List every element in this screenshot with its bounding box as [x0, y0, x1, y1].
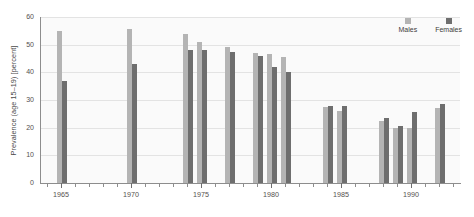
x-axis-minor-tick — [355, 183, 356, 187]
legend-swatch-icon — [405, 18, 411, 24]
bar-series-container — [41, 17, 461, 183]
bar-females-1981 — [286, 72, 291, 183]
x-axis-tick-label: 1975 — [193, 190, 209, 199]
chart-figure: Prevalence (age 15–19) [percent] 0102030… — [0, 0, 474, 217]
bar-females-1990 — [412, 112, 417, 183]
x-axis-minor-tick — [383, 183, 384, 187]
legend-label: Males — [398, 26, 417, 33]
bar-females-1975 — [202, 50, 207, 183]
x-axis-minor-tick — [159, 183, 160, 187]
legend-item-females: Females — [435, 18, 462, 33]
x-axis-minor-tick — [257, 183, 258, 187]
x-axis-minor-tick — [397, 183, 398, 187]
legend-swatch-icon — [446, 18, 452, 24]
x-axis-tick-label: 1965 — [53, 190, 69, 199]
x-axis-minor-tick — [425, 183, 426, 187]
legend-label: Females — [435, 26, 462, 33]
x-axis-minor-tick — [453, 183, 454, 187]
bar-females-1989 — [398, 126, 403, 183]
x-axis-tick-label: 1990 — [403, 190, 419, 199]
x-axis-minor-tick — [103, 183, 104, 187]
bar-females-1979 — [258, 56, 263, 183]
bar-females-1965 — [62, 81, 67, 183]
bar-females-1980 — [272, 67, 277, 183]
x-axis-major-tick — [341, 183, 342, 188]
x-axis-major-tick — [271, 183, 272, 188]
legend-item-males: Males — [398, 18, 417, 33]
x-axis-minor-tick — [173, 183, 174, 187]
bar-females-1977 — [230, 52, 235, 183]
bar-females-1974 — [188, 50, 193, 183]
x-axis-major-tick — [201, 183, 202, 188]
bar-females-1984 — [328, 106, 333, 183]
x-axis-minor-tick — [439, 183, 440, 187]
x-axis-tick-label: 1980 — [263, 190, 279, 199]
x-axis-minor-tick — [285, 183, 286, 187]
x-axis-major-tick — [61, 183, 62, 188]
x-axis-minor-tick — [145, 183, 146, 187]
x-axis-major-tick — [411, 183, 412, 188]
x-axis-minor-tick — [327, 183, 328, 187]
x-axis-minor-tick — [215, 183, 216, 187]
bar-females-1970 — [132, 64, 137, 183]
x-axis-minor-tick — [75, 183, 76, 187]
x-axis-tick-label: 1970 — [123, 190, 139, 199]
x-axis-minor-tick — [299, 183, 300, 187]
x-axis-tick-label: 1985 — [333, 190, 349, 199]
legend: MalesFemales — [398, 18, 462, 33]
x-axis-minor-tick — [229, 183, 230, 187]
x-axis-minor-tick — [313, 183, 314, 187]
x-axis-minor-tick — [47, 183, 48, 187]
x-axis-minor-tick — [243, 183, 244, 187]
x-axis-minor-tick — [89, 183, 90, 187]
x-axis-minor-tick — [117, 183, 118, 187]
x-axis-minor-tick — [187, 183, 188, 187]
bar-females-1985 — [342, 106, 347, 183]
x-axis-minor-tick — [369, 183, 370, 187]
bar-females-1988 — [384, 118, 389, 183]
bar-females-1992 — [440, 104, 445, 183]
x-axis-major-tick — [131, 183, 132, 188]
